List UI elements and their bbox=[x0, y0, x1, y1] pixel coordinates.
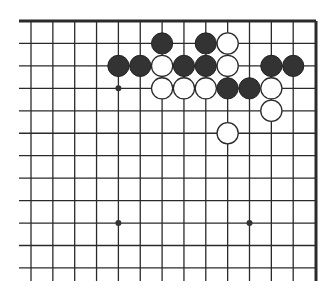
black-stone bbox=[173, 55, 194, 76]
white-stone bbox=[152, 78, 173, 99]
black-stone bbox=[195, 55, 216, 76]
black-stone bbox=[108, 55, 129, 76]
white-stone bbox=[152, 55, 173, 76]
black-stone bbox=[217, 78, 238, 99]
white-stone bbox=[173, 78, 194, 99]
black-stone bbox=[152, 33, 173, 54]
black-stone bbox=[283, 55, 304, 76]
star-point bbox=[115, 85, 121, 91]
white-stone bbox=[261, 78, 282, 99]
white-stone bbox=[217, 123, 238, 144]
black-stone bbox=[130, 55, 151, 76]
black-stone bbox=[195, 33, 216, 54]
white-stone bbox=[217, 33, 238, 54]
star-point bbox=[247, 220, 253, 226]
go-board bbox=[0, 0, 335, 296]
black-stone bbox=[261, 55, 282, 76]
white-stone bbox=[217, 55, 238, 76]
white-stone bbox=[261, 100, 282, 121]
black-stone bbox=[239, 78, 260, 99]
star-point bbox=[115, 220, 121, 226]
white-stone bbox=[195, 78, 216, 99]
